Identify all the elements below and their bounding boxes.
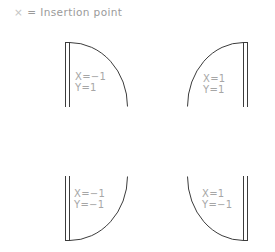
door-label-bottom-right: X=1 Y=−1	[202, 188, 232, 210]
door-swing-diagram	[0, 0, 275, 252]
y-value: Y=1	[75, 82, 106, 93]
x-value: X=1	[203, 73, 226, 84]
y-value: Y=−1	[74, 199, 105, 210]
door-label-top-left: X=−1 Y=1	[75, 71, 106, 93]
y-value: Y=−1	[202, 199, 232, 210]
x-value: X=1	[202, 188, 232, 199]
door-label-top-right: X=1 Y=1	[203, 73, 226, 95]
door-label-bottom-left: X=−1 Y=−1	[74, 188, 105, 210]
y-value: Y=1	[203, 84, 226, 95]
x-value: X=−1	[75, 71, 106, 82]
x-value: X=−1	[74, 188, 105, 199]
